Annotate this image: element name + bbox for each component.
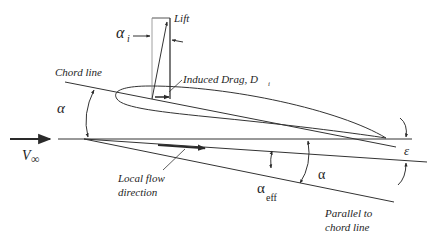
induced-drag-subscript: i: [268, 80, 270, 88]
v-inf-subscript: ∞: [31, 152, 40, 166]
alpha-eff-subscript: eff: [266, 192, 278, 203]
alpha-i-arrow-right: [172, 40, 183, 42]
epsilon-label: ε: [404, 143, 410, 158]
epsilon-arc-top: [400, 118, 406, 137]
alpha-eff-label: α: [257, 180, 265, 196]
alpha-label-right: α: [318, 167, 326, 182]
lift-resultant-arrow: [152, 22, 167, 99]
alpha-i-subscript: i: [127, 33, 130, 44]
parallel-label-line2: chord line: [325, 221, 370, 233]
local-flow-label-line2: direction: [118, 186, 158, 198]
alpha-i-label: α: [116, 24, 125, 41]
airfoil-diagram: Lift α i Chord line Induced Drag, D i α …: [0, 0, 440, 243]
airfoil-shape: [116, 86, 386, 138]
local-flow-label-line1: Local flow: [117, 172, 165, 184]
alpha-arc-left: [86, 90, 94, 137]
chord-line-label: Chord line: [55, 66, 102, 78]
alpha-label-left: α: [57, 100, 66, 116]
induced-drag-label: Induced Drag, D: [182, 73, 258, 85]
local-flow-leader: [163, 149, 185, 170]
lift-label: Lift: [173, 12, 190, 24]
alpha-eff-arc: [271, 151, 272, 168]
epsilon-arc-bottom: [398, 163, 406, 185]
alpha-arc-right: [300, 141, 309, 183]
parallel-label-line1: Parallel to: [324, 207, 373, 219]
local-flow-line: [84, 139, 427, 162]
